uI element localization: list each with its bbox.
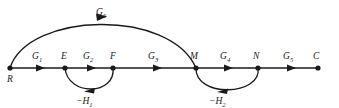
diagram-canvas: R E F M N C G1 G2 G3 G4 G5 G6 −H1 −H2: [0, 0, 339, 108]
edge-label-g2: G2: [83, 51, 94, 63]
node-dot-r: [7, 65, 12, 70]
node-label-r: R: [6, 74, 13, 84]
node-dot-m: [193, 65, 198, 70]
node-label-n: N: [252, 51, 260, 61]
edge-label-g1: G1: [32, 51, 42, 63]
edge-label-h2: −H2: [209, 96, 226, 108]
edge-label-g6: G6: [96, 7, 107, 19]
arrowhead-g2: [87, 65, 96, 72]
edge-label-g5: G5: [283, 51, 294, 63]
node-dot-e: [62, 65, 67, 70]
node-dot-n: [255, 65, 260, 70]
node-dot-f: [110, 65, 115, 70]
arc-h1: [65, 68, 113, 89]
node-label-e: E: [60, 51, 67, 61]
arrowhead-g1: [36, 65, 45, 72]
signal-flow-graph-figure: R E F M N C G1 G2 G3 G4 G5 G6 −H1 −H2: [0, 0, 339, 108]
arrowhead-g4: [224, 65, 233, 72]
edge-label-g4: G4: [220, 51, 231, 63]
arrowhead-g3: [153, 65, 162, 72]
edge-label-g3: G3: [148, 51, 159, 63]
node-dot-c: [315, 65, 320, 70]
arrowhead-g5: [287, 65, 296, 72]
edge-label-h1: −H1: [76, 96, 93, 108]
node-label-f: F: [109, 51, 116, 61]
node-label-m: M: [189, 51, 199, 61]
node-label-c: C: [313, 51, 320, 61]
arc-h2: [196, 68, 258, 90]
